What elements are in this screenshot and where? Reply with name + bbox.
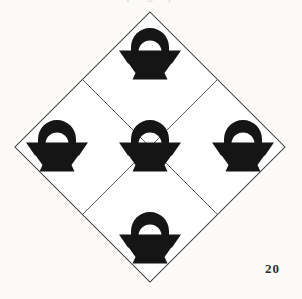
quilt-block-illustration [0,0,302,299]
page-canvas: p t g t p [0,0,302,299]
figure-number: 20 [265,261,280,277]
